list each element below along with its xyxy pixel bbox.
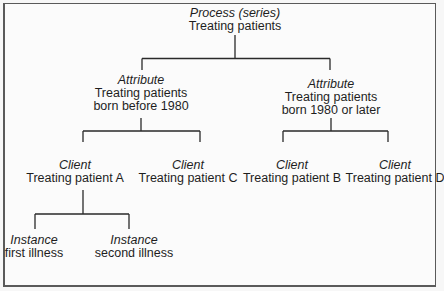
node-client-d: Client Treating patient D [346, 159, 444, 185]
node-instance-second-illness: Instance second illness [95, 234, 174, 260]
node-text: second illness [95, 247, 174, 260]
node-text: Treating patients [189, 20, 282, 33]
node-text: Treating patient D [346, 172, 444, 185]
node-client-b: Client Treating patient B [243, 159, 341, 185]
connector-clientA [35, 190, 129, 229]
node-text: first illness [5, 247, 63, 260]
connector-attr1 [83, 118, 200, 142]
node-text: Treating patient A [26, 172, 124, 185]
node-process-root: Process (series) Treating patients [189, 7, 282, 33]
connector-root [142, 35, 330, 70]
node-text: born before 1980 [93, 100, 188, 113]
node-instance-first-illness: Instance first illness [5, 234, 63, 260]
node-attribute-1980-or-later: Attribute Treating patients born 1980 or… [282, 78, 381, 117]
node-client-a: Client Treating patient A [26, 159, 124, 185]
node-attribute-before-1980: Attribute Treating patients born before … [93, 74, 188, 113]
node-text: Treating patient C [139, 172, 238, 185]
node-text: born 1980 or later [282, 104, 381, 117]
node-client-c: Client Treating patient C [139, 159, 238, 185]
connector-attr2 [283, 118, 388, 142]
node-text: Treating patient B [243, 172, 341, 185]
